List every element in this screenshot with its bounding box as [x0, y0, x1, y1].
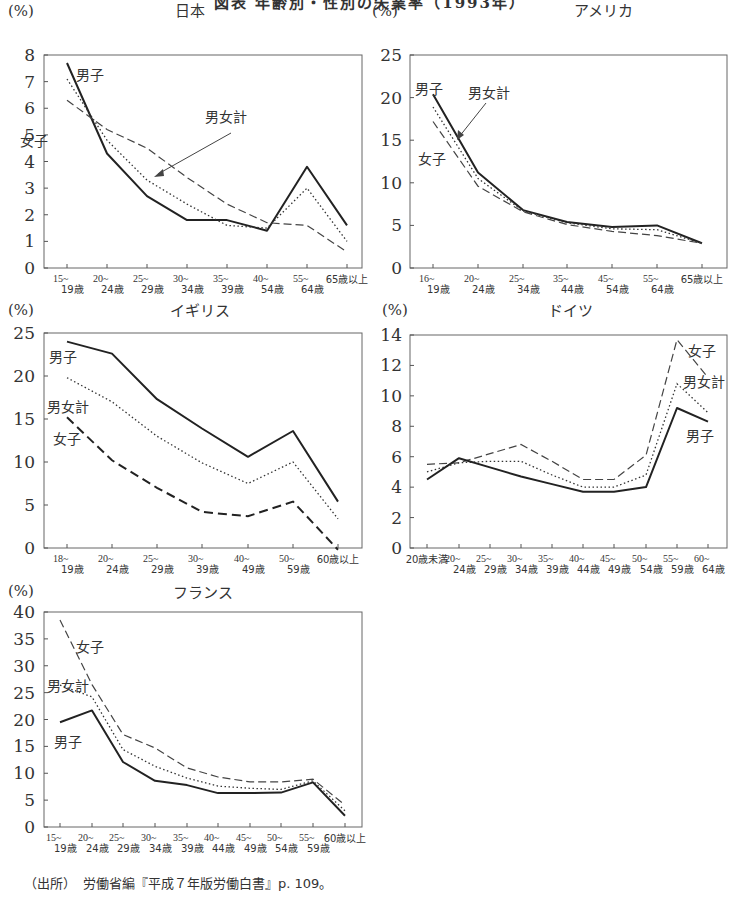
x-tick-label: 30~ — [507, 553, 523, 564]
series-label: 女子 — [76, 639, 104, 655]
x-tick-label: 39歳 — [181, 843, 204, 854]
x-tick-label: 34歳 — [181, 284, 204, 295]
x-tick-label: 25~ — [143, 553, 159, 564]
x-tick-label: 60歳以上 — [317, 554, 360, 565]
x-tick-label: 44歳 — [561, 284, 584, 295]
chart-1: (%)アメリカ051015202516~19歳20~24歳25~34歳35~44… — [372, 2, 727, 295]
y-tick-label: 15 — [380, 130, 402, 150]
y-tick-label: 5 — [391, 215, 402, 235]
y-tick-label: 0 — [24, 538, 35, 558]
x-tick-label: 20歳未満 — [406, 554, 449, 565]
y-tick-label: 0 — [24, 817, 35, 837]
arrow-annotation — [154, 133, 231, 177]
x-tick-label: 44歳 — [577, 564, 600, 575]
chart-3: (%)ドイツ0246810121420歳未満20~24歳25~29歳30~34歳… — [380, 301, 727, 575]
series-label: 女子 — [688, 343, 716, 359]
series-label: 男子 — [415, 81, 443, 97]
x-tick-label: 45~ — [598, 273, 614, 284]
chart-2: (%)イギリス051015202518~19歳20~24歳25~29歳30~39… — [8, 301, 362, 575]
x-tick-label: 54歳 — [275, 843, 298, 854]
x-tick-label: 55~ — [663, 553, 679, 564]
y-tick-label: 5 — [24, 790, 35, 810]
x-tick-label: 40~ — [569, 553, 585, 564]
y-tick-label: 10 — [13, 452, 35, 472]
y-tick-label: 25 — [380, 45, 402, 65]
x-tick-label: 20~ — [445, 553, 461, 564]
x-tick-label: 44歳 — [212, 843, 235, 854]
x-tick-label: 49歳 — [242, 564, 265, 575]
y-tick-label: 15 — [13, 736, 35, 756]
y-tick-label: 0 — [24, 258, 35, 278]
y-tick-label: 8 — [391, 416, 402, 436]
y-unit-label: (%) — [382, 301, 408, 319]
x-tick-label: 45~ — [600, 553, 616, 564]
x-tick-label: 20~ — [98, 553, 114, 564]
series-line-男子 — [433, 94, 702, 243]
y-tick-label: 5 — [24, 495, 35, 515]
y-tick-label: 7 — [24, 72, 35, 92]
y-tick-label: 10 — [13, 763, 35, 783]
x-tick-label: 64歳 — [702, 564, 725, 575]
x-tick-label: 55~ — [643, 273, 659, 284]
x-tick-label: 65歳以上 — [326, 274, 369, 285]
x-tick-label: 50~ — [279, 553, 295, 564]
chart-title: 日本 — [175, 2, 205, 20]
series-line-男子 — [60, 710, 345, 815]
y-tick-label: 0 — [391, 538, 402, 558]
y-tick-label: 14 — [380, 325, 402, 345]
y-tick-label: 25 — [13, 323, 35, 343]
chart-4: (%)フランス051015202530354015~19歳20~24歳25~29… — [8, 582, 366, 854]
x-tick-label: 40~ — [204, 832, 220, 843]
y-tick-label: 35 — [13, 629, 35, 649]
x-tick-label: 25~ — [133, 273, 149, 284]
y-tick-label: 10 — [380, 173, 402, 193]
y-tick-label: 40 — [13, 602, 35, 622]
x-tick-label: 19歳 — [427, 284, 450, 295]
x-tick-label: 35~ — [538, 553, 554, 564]
series-label: 男女計 — [47, 399, 89, 415]
series-label: 男子 — [54, 734, 82, 750]
series-label: 男子 — [49, 349, 77, 365]
x-tick-label: 54歳 — [640, 564, 663, 575]
y-unit-label: (%) — [8, 301, 34, 319]
x-tick-label: 24歳 — [101, 284, 124, 295]
chart-title: フランス — [173, 584, 233, 602]
x-tick-label: 35~ — [173, 832, 189, 843]
x-tick-label: 34歳 — [517, 284, 540, 295]
x-tick-label: 25~ — [109, 832, 125, 843]
arrow-annotation — [457, 103, 486, 140]
series-label: 女子 — [20, 133, 48, 149]
source-citation: （出所） 労働省編『平成７年版労働白書』p. 109。 — [24, 873, 332, 892]
plot-area — [410, 335, 727, 548]
y-tick-label: 20 — [380, 88, 402, 108]
y-unit-label: (%) — [8, 582, 34, 600]
x-tick-label: 55~ — [293, 273, 309, 284]
series-label: 男女計 — [47, 678, 89, 694]
series-label: 女子 — [418, 151, 446, 167]
x-tick-label: 55~ — [299, 832, 315, 843]
plot-area — [410, 55, 727, 268]
x-tick-label: 54歳 — [261, 284, 284, 295]
y-tick-label: 30 — [13, 656, 35, 676]
x-tick-label: 20~ — [464, 273, 480, 284]
series-line-男子 — [67, 342, 338, 502]
chart-0: (%)日本01234567815~19歳20~24歳25~29歳30~34歳35… — [8, 2, 368, 295]
y-tick-label: 6 — [391, 447, 402, 467]
x-tick-label: 30~ — [141, 832, 157, 843]
x-tick-label: 40~ — [253, 273, 269, 284]
x-tick-label: 24歳 — [106, 564, 129, 575]
x-tick-label: 19歳 — [61, 564, 84, 575]
x-tick-label: 30~ — [173, 273, 189, 284]
y-tick-label: 15 — [13, 409, 35, 429]
x-tick-label: 18~ — [53, 553, 69, 564]
x-tick-label: 19歳 — [54, 843, 77, 854]
x-tick-label: 30~ — [188, 553, 204, 564]
x-tick-label: 40~ — [234, 553, 250, 564]
y-tick-label: 8 — [24, 45, 35, 65]
x-tick-label: 29歳 — [151, 564, 174, 575]
x-tick-label: 59歳 — [287, 564, 310, 575]
series-label: 女子 — [53, 431, 81, 447]
series-label: 男女計 — [205, 109, 247, 125]
x-tick-label: 34歳 — [515, 564, 538, 575]
chart-title: イギリス — [170, 302, 230, 320]
